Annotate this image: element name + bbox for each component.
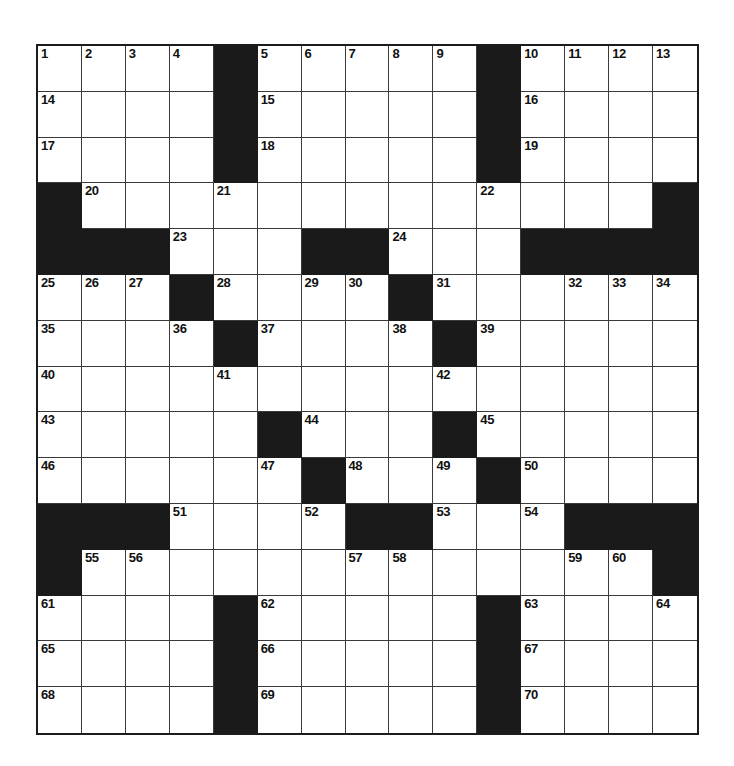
crossword-cell[interactable] [609, 138, 653, 184]
crossword-cell[interactable] [433, 596, 477, 642]
crossword-cell[interactable] [565, 367, 609, 413]
crossword-cell[interactable]: 47 [258, 458, 302, 504]
crossword-cell[interactable]: 55 [82, 550, 126, 596]
crossword-cell[interactable] [302, 138, 346, 184]
crossword-cell[interactable]: 6 [302, 46, 346, 92]
crossword-cell[interactable] [653, 321, 697, 367]
crossword-cell[interactable] [565, 687, 609, 733]
crossword-cell[interactable] [214, 229, 258, 275]
crossword-cell[interactable] [170, 183, 214, 229]
crossword-cell[interactable] [170, 596, 214, 642]
crossword-cell[interactable]: 33 [609, 275, 653, 321]
crossword-cell[interactable] [477, 367, 521, 413]
crossword-cell[interactable]: 27 [126, 275, 170, 321]
crossword-cell[interactable]: 26 [82, 275, 126, 321]
crossword-cell[interactable] [302, 92, 346, 138]
crossword-cell[interactable] [389, 641, 433, 687]
crossword-cell[interactable] [82, 687, 126, 733]
crossword-cell[interactable] [653, 458, 697, 504]
crossword-cell[interactable] [653, 687, 697, 733]
crossword-cell[interactable]: 59 [565, 550, 609, 596]
crossword-cell[interactable] [302, 367, 346, 413]
crossword-cell[interactable] [302, 687, 346, 733]
crossword-cell[interactable] [126, 92, 170, 138]
crossword-cell[interactable] [126, 138, 170, 184]
crossword-cell[interactable]: 62 [258, 596, 302, 642]
crossword-cell[interactable] [653, 641, 697, 687]
crossword-cell[interactable] [214, 504, 258, 550]
crossword-cell[interactable] [126, 412, 170, 458]
crossword-cell[interactable] [565, 92, 609, 138]
crossword-cell[interactable] [609, 92, 653, 138]
crossword-cell[interactable]: 32 [565, 275, 609, 321]
crossword-cell[interactable] [389, 92, 433, 138]
crossword-cell[interactable] [170, 641, 214, 687]
crossword-cell[interactable]: 3 [126, 46, 170, 92]
crossword-cell[interactable]: 51 [170, 504, 214, 550]
crossword-cell[interactable] [258, 504, 302, 550]
crossword-cell[interactable] [302, 641, 346, 687]
crossword-grid[interactable]: 1234567891011121314151617181920212223242… [36, 44, 699, 735]
crossword-cell[interactable] [302, 183, 346, 229]
crossword-cell[interactable] [346, 596, 390, 642]
crossword-cell[interactable] [565, 321, 609, 367]
crossword-cell[interactable] [82, 596, 126, 642]
crossword-cell[interactable] [82, 641, 126, 687]
crossword-cell[interactable] [214, 550, 258, 596]
crossword-cell[interactable]: 24 [389, 229, 433, 275]
crossword-cell[interactable]: 2 [82, 46, 126, 92]
crossword-cell[interactable] [653, 367, 697, 413]
crossword-cell[interactable]: 66 [258, 641, 302, 687]
crossword-cell[interactable] [82, 92, 126, 138]
crossword-cell[interactable] [82, 138, 126, 184]
crossword-cell[interactable] [609, 412, 653, 458]
crossword-cell[interactable]: 19 [521, 138, 565, 184]
crossword-cell[interactable] [565, 641, 609, 687]
crossword-cell[interactable] [258, 367, 302, 413]
crossword-cell[interactable] [521, 367, 565, 413]
crossword-cell[interactable]: 45 [477, 412, 521, 458]
crossword-cell[interactable] [346, 138, 390, 184]
crossword-cell[interactable] [346, 321, 390, 367]
crossword-cell[interactable] [609, 458, 653, 504]
crossword-cell[interactable] [433, 229, 477, 275]
crossword-cell[interactable] [609, 183, 653, 229]
crossword-cell[interactable] [126, 321, 170, 367]
crossword-cell[interactable]: 29 [302, 275, 346, 321]
crossword-cell[interactable]: 60 [609, 550, 653, 596]
crossword-cell[interactable] [126, 596, 170, 642]
crossword-cell[interactable] [565, 183, 609, 229]
crossword-cell[interactable]: 65 [38, 641, 82, 687]
crossword-cell[interactable] [346, 92, 390, 138]
crossword-cell[interactable]: 54 [521, 504, 565, 550]
crossword-cell[interactable] [477, 504, 521, 550]
crossword-cell[interactable] [170, 92, 214, 138]
crossword-cell[interactable] [170, 412, 214, 458]
crossword-cell[interactable] [82, 367, 126, 413]
crossword-cell[interactable] [477, 550, 521, 596]
crossword-cell[interactable] [170, 458, 214, 504]
crossword-cell[interactable]: 8 [389, 46, 433, 92]
crossword-cell[interactable] [214, 412, 258, 458]
crossword-cell[interactable] [126, 641, 170, 687]
crossword-cell[interactable] [346, 367, 390, 413]
crossword-cell[interactable] [433, 687, 477, 733]
crossword-cell[interactable]: 10 [521, 46, 565, 92]
crossword-cell[interactable]: 39 [477, 321, 521, 367]
crossword-cell[interactable]: 70 [521, 687, 565, 733]
crossword-cell[interactable]: 44 [302, 412, 346, 458]
crossword-cell[interactable]: 42 [433, 367, 477, 413]
crossword-cell[interactable] [126, 183, 170, 229]
crossword-cell[interactable]: 63 [521, 596, 565, 642]
crossword-cell[interactable] [433, 92, 477, 138]
crossword-cell[interactable] [521, 321, 565, 367]
crossword-cell[interactable]: 48 [346, 458, 390, 504]
crossword-cell[interactable] [521, 550, 565, 596]
crossword-cell[interactable] [346, 183, 390, 229]
crossword-cell[interactable]: 11 [565, 46, 609, 92]
crossword-cell[interactable] [565, 412, 609, 458]
crossword-cell[interactable] [609, 321, 653, 367]
crossword-cell[interactable]: 56 [126, 550, 170, 596]
crossword-cell[interactable] [389, 458, 433, 504]
crossword-cell[interactable]: 7 [346, 46, 390, 92]
